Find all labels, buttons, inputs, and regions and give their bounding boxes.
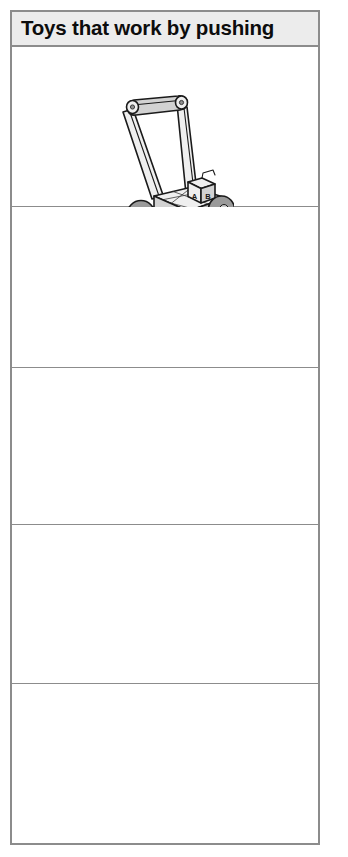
table-cell-answer[interactable] [12,368,318,524]
table-row[interactable] [12,684,318,843]
table-header-title: Toys that work by pushing [21,18,274,39]
table-row[interactable] [12,207,318,368]
table-cell-answer[interactable] [12,684,318,843]
worksheet-page: Toys that work by pushing .ol { stroke:#… [0,0,348,857]
block-letter-b: B [205,192,211,201]
table-body: .ol { stroke:#1a1a1a; stroke-width:3.2; … [12,47,318,843]
table-row[interactable] [12,525,318,684]
block-letter-a: A [192,192,198,201]
table-cell-answer[interactable] [12,525,318,683]
toys-table: Toys that work by pushing .ol { stroke:#… [10,10,320,845]
table-row[interactable] [12,368,318,525]
table-cell-answer[interactable] [12,207,318,367]
table-cell-answer[interactable]: .ol { stroke:#1a1a1a; stroke-width:3.2; … [12,47,318,206]
table-header-row: Toys that work by pushing [12,12,318,47]
table-row[interactable]: .ol { stroke:#1a1a1a; stroke-width:3.2; … [12,47,318,207]
